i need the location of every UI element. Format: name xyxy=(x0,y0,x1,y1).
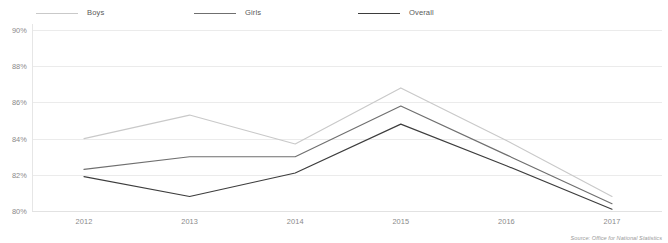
x-axis-tick-label: 2016 xyxy=(498,217,515,226)
chart-legend: Boys Girls Overall xyxy=(0,0,668,24)
source-note: Source: Office for National Statistics xyxy=(571,235,662,241)
legend-label-boys: Boys xyxy=(87,9,104,17)
legend-item-boys[interactable]: Boys xyxy=(36,6,104,20)
y-axis-tick-label: 82% xyxy=(12,170,27,179)
line-chart: Boys Girls Overall 80%82%84%86%88%90% 20… xyxy=(0,0,668,243)
series-lines xyxy=(32,24,662,243)
y-axis-labels: 80%82%84%86%88%90% xyxy=(0,24,30,243)
legend-label-overall: Overall xyxy=(409,9,434,17)
legend-swatch-girls xyxy=(194,13,236,14)
legend-item-overall[interactable]: Overall xyxy=(358,6,434,20)
y-axis-tick-label: 88% xyxy=(12,62,27,71)
y-axis-tick-label: 84% xyxy=(12,134,27,143)
y-axis-tick-label: 86% xyxy=(12,98,27,107)
x-axis-tick-label: 2012 xyxy=(76,217,93,226)
legend-swatch-overall xyxy=(358,13,400,14)
legend-label-girls: Girls xyxy=(245,9,261,17)
legend-swatch-boys xyxy=(36,13,78,14)
x-axis-tick-label: 2015 xyxy=(392,217,409,226)
legend-item-girls[interactable]: Girls xyxy=(194,6,261,20)
x-axis-labels: 201220132014201520162017 xyxy=(32,212,662,232)
y-axis-tick-label: 90% xyxy=(12,26,27,35)
x-axis-tick-label: 2017 xyxy=(604,217,621,226)
series-line-boys xyxy=(84,88,612,197)
y-axis-tick-label: 80% xyxy=(12,207,27,216)
x-axis-tick-label: 2014 xyxy=(287,217,304,226)
x-axis-tick-label: 2013 xyxy=(181,217,198,226)
plot-area: 80%82%84%86%88%90% 201220132014201520162… xyxy=(0,24,668,243)
